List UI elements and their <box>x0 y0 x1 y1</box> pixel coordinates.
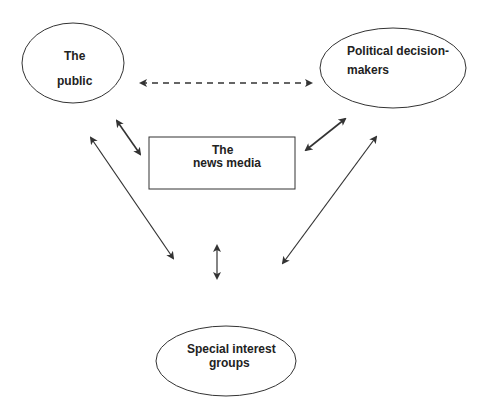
interest-node-label-line1: Special interest <box>187 342 276 356</box>
public-node-label-line1: The <box>64 49 85 63</box>
edge-political-interest <box>283 137 376 263</box>
public-node-label-line2: public <box>57 74 92 88</box>
media-node-label-line1: The <box>212 143 233 157</box>
political-node-label-line2: makers <box>347 63 389 77</box>
public-node-shape <box>22 23 124 103</box>
edge-public-interest <box>91 138 173 258</box>
political-node-shape <box>320 28 466 108</box>
interest-node-label-line2: groups <box>209 356 250 370</box>
edge-political-media <box>306 119 345 150</box>
media-node-label-line2: news media <box>193 156 261 170</box>
diagram-canvas: The public Political decision- makers Th… <box>0 0 486 417</box>
edge-public-media <box>117 121 140 154</box>
political-node-label-line1: Political decision- <box>347 44 449 58</box>
